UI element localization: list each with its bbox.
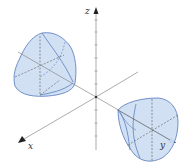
left-surface: [14, 33, 76, 97]
z-arrow-icon: [94, 7, 99, 14]
x-axis-label: x: [28, 141, 33, 151]
x-axis: [24, 97, 96, 139]
z-axis-label: z: [84, 6, 90, 16]
right-surface: [118, 98, 178, 162]
y-axis-label: y: [159, 140, 166, 150]
x-arrow-icon: [18, 136, 26, 143]
diagram-canvas: z x y: [0, 0, 193, 168]
